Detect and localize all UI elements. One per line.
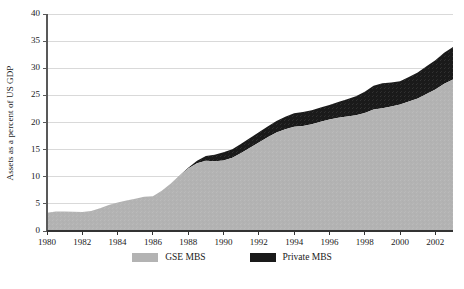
x-tick-label: 1984 bbox=[109, 237, 127, 247]
legend-label-private-mbs: Private MBS bbox=[283, 252, 332, 262]
legend-swatch-private-mbs bbox=[250, 253, 276, 262]
y-tick-label: 5 bbox=[0, 198, 40, 208]
legend-item-gse-mbs: GSE MBS bbox=[132, 252, 205, 262]
y-tick-label: 30 bbox=[0, 62, 40, 72]
chart-figure: Assets as a percent of US GDP 0510152025… bbox=[0, 0, 464, 289]
x-tick-label: 2002 bbox=[426, 237, 444, 247]
legend-swatch-gse-mbs bbox=[132, 253, 158, 262]
legend-item-private-mbs: Private MBS bbox=[250, 252, 332, 262]
y-tick-label: 10 bbox=[0, 171, 40, 181]
y-tick-label: 0 bbox=[0, 225, 40, 235]
chart-legend: GSE MBS Private MBS bbox=[0, 252, 464, 262]
x-tick-label: 1992 bbox=[250, 237, 268, 247]
x-tick-label: 1988 bbox=[179, 237, 197, 247]
x-tick-label: 1982 bbox=[73, 237, 91, 247]
x-tick-label: 1996 bbox=[320, 237, 338, 247]
y-tick-label: 40 bbox=[0, 8, 40, 18]
x-tick-label: 1986 bbox=[144, 237, 162, 247]
y-tick-label: 25 bbox=[0, 89, 40, 99]
y-tick-label: 35 bbox=[0, 35, 40, 45]
x-tick-label: 1980 bbox=[38, 237, 56, 247]
legend-label-gse-mbs: GSE MBS bbox=[165, 252, 205, 262]
y-tick-label: 20 bbox=[0, 117, 40, 127]
x-tick-label: 1998 bbox=[356, 237, 374, 247]
x-tick-label: 1990 bbox=[215, 237, 233, 247]
x-tick-label: 2000 bbox=[391, 237, 409, 247]
y-tick-label: 15 bbox=[0, 144, 40, 154]
x-tick-label: 1994 bbox=[285, 237, 303, 247]
